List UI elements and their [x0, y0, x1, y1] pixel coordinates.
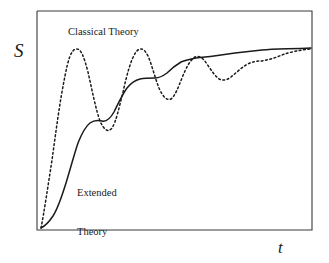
classical-theory-label: Classical Theory: [68, 25, 139, 38]
figure-background: [0, 0, 329, 263]
y-axis-label: S: [14, 40, 24, 62]
figure-container: S t Classical Theory Extended Theory: [0, 0, 329, 263]
x-axis-label: t: [278, 238, 283, 258]
extended-theory-label: Extended Theory: [77, 160, 117, 263]
extended-theory-label-line2: Theory: [77, 225, 117, 238]
chart-canvas: [0, 0, 329, 263]
extended-theory-label-line1: Extended: [77, 186, 117, 199]
